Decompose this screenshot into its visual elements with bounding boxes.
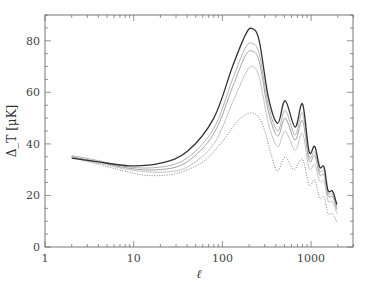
y-tick-label: 60 [26,86,40,99]
y-tick-label: 0 [33,241,40,254]
plot-area: 1101001000 020406080 [26,15,353,265]
x-axis-label: ℓ [197,267,202,281]
y-tick-label: 40 [26,138,40,151]
x-tick-label: 1 [42,252,49,265]
curves [72,28,337,222]
y-axis-label: Δ_T [μK] [5,105,19,158]
curve-line [72,113,337,223]
curve-line [72,67,337,214]
y-tick-label: 80 [26,35,40,48]
x-tick-label: 100 [212,252,233,265]
chart: 1101001000 020406080 ℓ Δ_T [μK] [0,0,366,287]
x-tick-label: 1000 [297,252,325,265]
y-axis-ticks: 020406080 [26,15,353,254]
x-tick-label: 10 [127,252,141,265]
y-tick-label: 20 [26,189,40,202]
curve-line [72,28,337,204]
